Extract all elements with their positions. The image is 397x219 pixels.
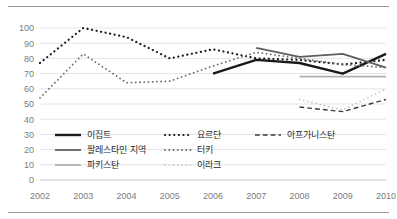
bottom-divider-rule — [8, 212, 389, 213]
gridlines-group — [40, 28, 386, 180]
legend-label-요르단: 요르단 — [197, 130, 221, 140]
x-tick-label: 2005 — [160, 191, 180, 201]
series-터키 — [40, 52, 386, 98]
x-tick-label: 2002 — [30, 191, 50, 201]
legend-label-이라크: 이라크 — [197, 160, 221, 170]
top-divider-rule — [8, 6, 389, 7]
x-tick-label: 2004 — [116, 191, 136, 201]
chart-figure: 0102030405060708090100 20022003200420052… — [0, 0, 397, 219]
y-tick-label: 70 — [24, 69, 34, 79]
legend-item-팔레스타인 지역[interactable]: 팔레스타인 지역 — [55, 144, 146, 155]
legend-item-이라크[interactable]: 이라크 — [165, 160, 221, 170]
plot-area: 0102030405060708090100 20022003200420052… — [0, 8, 397, 212]
y-tick-label: 10 — [24, 160, 34, 170]
legend-label-터키: 터키 — [197, 145, 213, 155]
y-tick-label: 60 — [24, 84, 34, 94]
x-tick-label: 2009 — [333, 191, 353, 201]
legend-item-파키스탄[interactable]: 파키스탄 — [55, 160, 119, 170]
series-아프가니스탄 — [300, 99, 387, 111]
line-chart-svg: 0102030405060708090100 20022003200420052… — [0, 8, 397, 212]
x-tick-label: 2010 — [376, 191, 396, 201]
legend-item-요르단[interactable]: 요르단 — [165, 130, 221, 140]
legend-label-팔레스타인 지역: 팔레스타인 지역 — [87, 144, 146, 155]
x-tick-label: 2006 — [203, 191, 223, 201]
y-tick-label: 90 — [24, 39, 34, 49]
y-tick-label: 20 — [24, 145, 34, 155]
legend-item-터키[interactable]: 터키 — [165, 145, 213, 155]
series-이라크 — [300, 89, 387, 110]
y-axis-tick-labels: 0102030405060708090100 — [19, 23, 34, 185]
x-tick-label: 2003 — [73, 191, 93, 201]
y-tick-label: 40 — [24, 115, 34, 125]
y-tick-label: 80 — [24, 54, 34, 64]
y-tick-label: 0 — [29, 175, 34, 185]
x-axis-tick-labels: 200220032004200520062007200820092010 — [30, 191, 396, 201]
x-tick-label: 2008 — [289, 191, 309, 201]
y-tick-label: 30 — [24, 130, 34, 140]
legend-label-아프가니스탄: 아프가니스탄 — [287, 130, 335, 140]
y-tick-label: 50 — [24, 99, 34, 109]
legend-label-파키스탄: 파키스탄 — [87, 160, 119, 170]
y-tick-label: 100 — [19, 23, 34, 33]
legend-label-이집트: 이집트 — [87, 129, 111, 140]
legend-item-아프가니스탄[interactable]: 아프가니스탄 — [255, 130, 335, 140]
x-tick-label: 2007 — [246, 191, 266, 201]
data-series-group — [40, 28, 386, 112]
series-팔레스타인 지역 — [256, 48, 386, 68]
